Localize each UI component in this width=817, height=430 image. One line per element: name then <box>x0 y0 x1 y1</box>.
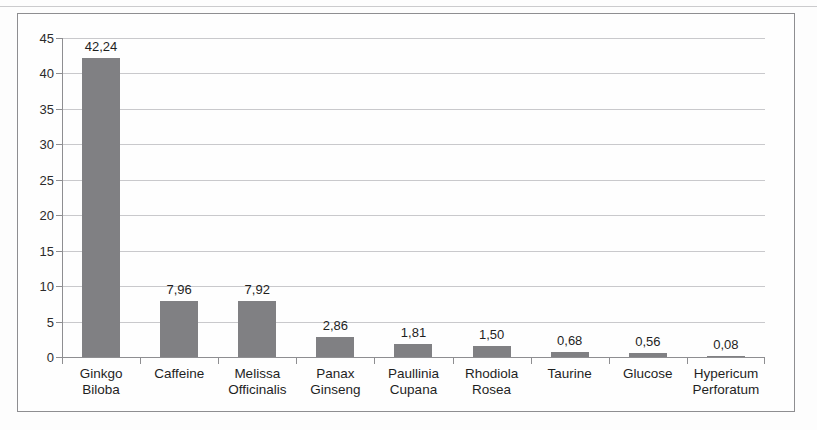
x-category-label: PanaxGinseng <box>310 366 360 398</box>
bar-value-label: 0,68 <box>557 333 582 348</box>
y-tick-label: 40 <box>14 66 54 81</box>
y-tick-label: 25 <box>14 172 54 187</box>
y-tick-label: 35 <box>14 101 54 116</box>
x-category-label-line: Paullinia <box>388 366 439 382</box>
x-tick-mark <box>374 357 375 364</box>
y-tick-label: 30 <box>14 137 54 152</box>
x-tick-mark <box>296 357 297 364</box>
x-category-label-line: Caffeine <box>154 366 204 382</box>
x-tick-mark <box>218 357 219 364</box>
bar[interactable] <box>473 346 511 357</box>
x-axis-category-labels: GinkgoBilobaCaffeineMelissaOfficinalisPa… <box>62 366 765 412</box>
x-category-label-line: Rosea <box>465 382 518 398</box>
bar-value-label: 0,08 <box>713 337 738 352</box>
x-tick-mark <box>531 357 532 364</box>
y-tick-label: 10 <box>14 279 54 294</box>
bar-group[interactable]: 2,86 <box>296 38 374 357</box>
x-category-label-line: Cupana <box>388 382 439 398</box>
x-category-label-line: Taurine <box>548 366 592 382</box>
x-category-label: RhodiolaRosea <box>465 366 518 398</box>
x-category-label: GinkgoBiloba <box>80 366 123 398</box>
x-category-label: PaulliniaCupana <box>388 366 439 398</box>
x-category-label: MelissaOfficinalis <box>228 366 286 398</box>
x-tick-mark <box>609 357 610 364</box>
bar-group[interactable]: 0,56 <box>609 38 687 357</box>
bar-value-label: 1,81 <box>401 325 426 340</box>
bar[interactable] <box>394 344 432 357</box>
chart-figure: 051015202530354045 42,247,967,922,861,81… <box>0 0 817 430</box>
x-tick-mark <box>62 357 63 364</box>
bar-series: 42,247,967,922,861,811,500,680,560,08 <box>62 38 765 357</box>
bar[interactable] <box>82 58 120 357</box>
bar-group[interactable]: 1,50 <box>453 38 531 357</box>
x-category-label: Taurine <box>548 366 592 382</box>
x-category-label-line: Ginkgo <box>80 366 123 382</box>
bar-value-label: 7,96 <box>167 282 192 297</box>
x-tick-mark <box>453 357 454 364</box>
bar-value-label: 1,50 <box>479 327 504 342</box>
x-category-label: Caffeine <box>154 366 204 382</box>
y-tick-label: 15 <box>14 243 54 258</box>
bar-group[interactable]: 0,08 <box>687 38 765 357</box>
bar-value-label: 0,56 <box>635 334 660 349</box>
x-category-label-line: Biloba <box>80 382 123 398</box>
bar-group[interactable]: 7,96 <box>140 38 218 357</box>
bar-group[interactable]: 42,24 <box>62 38 140 357</box>
bar-value-label: 7,92 <box>245 282 270 297</box>
bar[interactable] <box>316 337 354 357</box>
x-category-label-line: Glucose <box>623 366 673 382</box>
y-axis-tick-labels: 051015202530354045 <box>8 38 54 357</box>
bar-group[interactable]: 7,92 <box>218 38 296 357</box>
x-category-label-line: Perforatum <box>693 382 760 398</box>
scan-artifact-line <box>0 6 817 7</box>
x-tick-mark <box>764 357 765 364</box>
x-category-label: HypericumPerforatum <box>693 366 760 398</box>
bar[interactable] <box>160 301 198 357</box>
x-category-label-line: Hypericum <box>693 366 760 382</box>
y-tick-label: 5 <box>14 314 54 329</box>
bar-group[interactable]: 0,68 <box>531 38 609 357</box>
x-category-label-line: Ginseng <box>310 382 360 398</box>
x-category-label-line: Officinalis <box>228 382 286 398</box>
bar[interactable] <box>238 301 276 357</box>
y-tick-label: 45 <box>14 31 54 46</box>
x-axis-tick-marks <box>62 357 765 365</box>
x-category-label-line: Panax <box>310 366 360 382</box>
bar-group[interactable]: 1,81 <box>374 38 452 357</box>
y-tick-label: 0 <box>14 350 54 365</box>
bar-value-label: 42,24 <box>85 39 118 54</box>
x-category-label-line: Rhodiola <box>465 366 518 382</box>
x-tick-mark <box>140 357 141 364</box>
bar-value-label: 2,86 <box>323 318 348 333</box>
x-category-label-line: Melissa <box>228 366 286 382</box>
x-tick-mark <box>687 357 688 364</box>
x-category-label: Glucose <box>623 366 673 382</box>
y-tick-label: 20 <box>14 208 54 223</box>
